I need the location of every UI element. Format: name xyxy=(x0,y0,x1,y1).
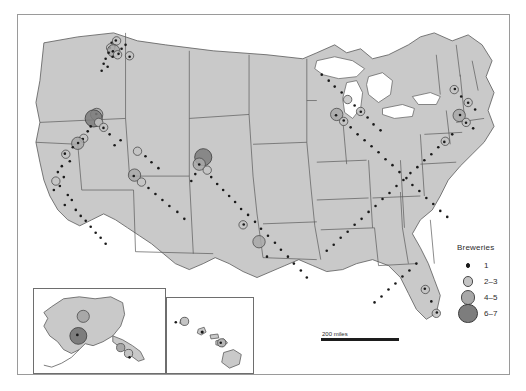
brewery-marker xyxy=(176,211,179,214)
brewery-marker xyxy=(247,214,250,217)
brewery-marker xyxy=(133,147,141,155)
brewery-marker xyxy=(342,119,345,122)
inset-marker xyxy=(77,310,89,322)
brewery-marker xyxy=(474,108,477,111)
brewery-marker xyxy=(117,53,120,56)
brewery-marker xyxy=(254,221,257,224)
brewery-marker xyxy=(432,203,435,206)
land-layer xyxy=(36,33,494,319)
brewery-marker xyxy=(216,183,219,186)
brewery-marker xyxy=(402,179,405,182)
brewery-marker xyxy=(300,269,303,272)
brewery-marker xyxy=(467,101,470,104)
brewery-marker xyxy=(379,129,382,132)
brewery-marker xyxy=(377,151,380,154)
brewery-marker xyxy=(266,255,269,258)
brewery-marker xyxy=(71,146,74,149)
brewery-marker xyxy=(240,208,243,211)
brewery-marker xyxy=(360,218,363,221)
brewery-marker xyxy=(274,241,277,244)
brewery-marker xyxy=(333,85,336,88)
brewery-marker xyxy=(144,155,147,158)
brewery-marker xyxy=(387,288,390,291)
brewery-marker xyxy=(67,194,70,197)
brewery-marker xyxy=(405,177,408,180)
brewery-marker xyxy=(424,287,427,290)
brewery-marker xyxy=(320,73,323,76)
brewery-marker xyxy=(52,177,60,185)
brewery-marker xyxy=(356,133,359,136)
brewery-marker xyxy=(363,139,366,142)
inset-marker xyxy=(175,321,178,324)
brewery-marker xyxy=(394,282,397,285)
brewery-marker xyxy=(373,301,376,304)
brewery-marker xyxy=(183,218,186,221)
brewery-marker xyxy=(61,165,64,168)
brewery-marker xyxy=(79,215,82,218)
brewery-marker xyxy=(346,230,349,233)
brewery-marker xyxy=(430,153,433,156)
brewery-marker xyxy=(425,197,428,200)
brewery-marker xyxy=(353,224,356,227)
brewery-marker xyxy=(366,116,369,119)
brewery-marker xyxy=(408,269,411,272)
brewery-marker xyxy=(150,161,153,164)
brewery-marker xyxy=(154,193,157,196)
brewery-marker xyxy=(113,144,116,147)
brewery-marker xyxy=(106,65,109,68)
brewery-marker xyxy=(100,69,103,72)
brewery-marker xyxy=(119,139,122,142)
brewery-marker xyxy=(210,176,213,179)
brewery-marker xyxy=(360,111,363,114)
brewery-marker xyxy=(430,300,433,303)
brewery-marker xyxy=(260,228,263,231)
brewery-marker xyxy=(89,125,92,128)
brewery-marker xyxy=(168,205,171,208)
brewery-marker xyxy=(194,173,197,176)
brewery-marker xyxy=(94,231,97,234)
brewery-marker xyxy=(472,127,475,130)
brewery-marker xyxy=(391,164,394,167)
brewery-marker xyxy=(253,236,265,248)
us-landmass xyxy=(36,33,494,319)
brewery-marker xyxy=(203,166,211,174)
brewery-marker xyxy=(89,226,92,229)
brewery-marker xyxy=(381,198,384,201)
brewery-marker xyxy=(340,91,343,94)
brewery-marker xyxy=(70,199,73,202)
brewery-marker xyxy=(108,133,111,136)
brewery-marker xyxy=(137,178,145,186)
inset-marker xyxy=(180,317,188,325)
inset-hawaii xyxy=(166,297,254,374)
brewery-marker xyxy=(57,171,60,174)
brewery-marker xyxy=(147,187,150,190)
brewery-marker xyxy=(395,185,398,188)
brewery-marker xyxy=(370,145,373,148)
brewery-marker xyxy=(198,163,201,166)
brewery-marker xyxy=(380,295,383,298)
brewery-marker xyxy=(115,39,118,42)
brewery-marker xyxy=(437,146,440,149)
brewery-marker xyxy=(349,126,352,129)
brewery-marker xyxy=(384,158,387,161)
brewery-marker xyxy=(68,160,71,163)
brewery-marker xyxy=(64,152,67,155)
brewery-marker xyxy=(104,57,107,60)
brewery-marker xyxy=(113,51,121,59)
inset-marker xyxy=(70,327,87,344)
brewery-marker xyxy=(124,44,127,47)
inset-marker xyxy=(117,344,125,352)
brewery-marker xyxy=(157,167,160,170)
brewery-marker xyxy=(343,95,351,103)
brewery-marker xyxy=(222,189,225,192)
brewery-marker xyxy=(418,190,421,193)
brewery-marker xyxy=(102,62,105,65)
brewery-marker xyxy=(287,255,290,258)
brewery-marker xyxy=(465,121,468,124)
brewery-marker xyxy=(411,184,414,187)
inset-marker xyxy=(128,356,131,359)
brewery-marker xyxy=(401,275,404,278)
brewery-marker xyxy=(77,142,80,145)
brewery-marker xyxy=(436,311,439,314)
brewery-marker xyxy=(415,262,418,265)
